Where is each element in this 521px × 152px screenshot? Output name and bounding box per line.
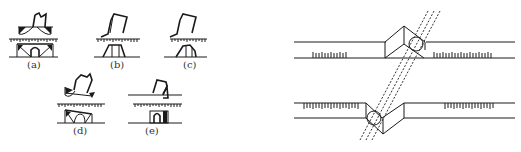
- subfigure-e: (e): [128, 80, 182, 136]
- label-c: (c): [183, 59, 197, 70]
- label-e: (e): [145, 125, 159, 136]
- label-b: (b): [110, 59, 124, 70]
- upper-ticks-right: [434, 52, 491, 58]
- label-a: (a): [27, 59, 41, 70]
- upper-ticks-left: [313, 52, 346, 58]
- subfigure-a: (a): [9, 13, 58, 70]
- lower-strip: [294, 103, 515, 134]
- technical-diagram: (a) (b) (c) (d): [0, 0, 521, 152]
- label-d: (d): [73, 125, 87, 136]
- upper-strip: [294, 26, 515, 58]
- subfigure-b: (b): [94, 14, 140, 70]
- upper-prism: [385, 26, 425, 58]
- right-diagram: [294, 11, 515, 140]
- subfigure-d: (d): [57, 74, 105, 136]
- lower-ticks-right: [445, 103, 493, 109]
- subfigure-c: (c): [164, 14, 207, 70]
- lower-ticks-left: [304, 103, 358, 109]
